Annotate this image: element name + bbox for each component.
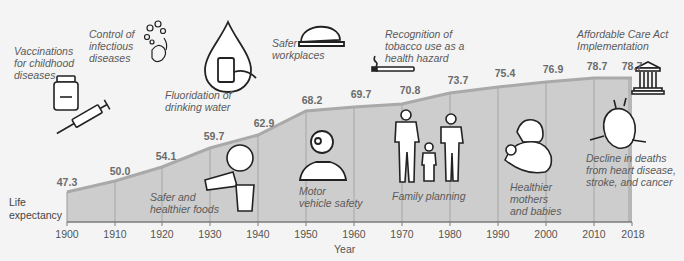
tick-label-2018: 2018 xyxy=(621,228,644,240)
value-label-1910: 50.0 xyxy=(110,165,130,177)
value-label-1960: 69.7 xyxy=(351,88,371,100)
value-label-1920: 54.1 xyxy=(156,150,176,162)
tick-label-1920: 1920 xyxy=(150,228,173,240)
tick-label-1940: 1940 xyxy=(246,228,269,240)
tick-label-1900: 1900 xyxy=(55,228,78,240)
annotation-family-planning: Family planning xyxy=(392,190,466,202)
tick-label-2000: 2000 xyxy=(534,228,557,240)
annotation-motor-vehicle-safety: Motor vehicle safety xyxy=(299,185,363,209)
y-axis-label: Life expectancy xyxy=(9,196,62,222)
annotation-fluoridation: Fluoridation of drinking water xyxy=(165,89,232,113)
tick-label-1960: 1960 xyxy=(342,228,365,240)
annotation-safer-workplaces: Safer workplaces xyxy=(272,37,325,61)
value-label-1900: 47.3 xyxy=(57,176,77,188)
value-label-1970: 70.8 xyxy=(400,84,420,96)
value-label-2010: 78.7 xyxy=(587,60,607,72)
tick-label-2010: 2010 xyxy=(582,228,605,240)
value-label-1980: 73.7 xyxy=(448,74,468,86)
annotation-mothers-babies: Healthier mothers and babies xyxy=(510,181,561,217)
tick-label-1970: 1970 xyxy=(390,228,413,240)
water-drop-icon xyxy=(205,22,256,92)
annotation-tobacco: Recognition of tobacco use as a health h… xyxy=(385,28,464,64)
value-label-2000: 76.9 xyxy=(543,63,563,75)
annotation-infectious-diseases: Control of infectious diseases xyxy=(89,28,135,64)
tick-label-1950: 1950 xyxy=(294,228,317,240)
tick-label-1930: 1930 xyxy=(198,228,221,240)
value-label-2018: 78.7 xyxy=(622,60,642,72)
annotation-vaccinations: Vaccinations for childhood diseases xyxy=(14,45,74,81)
annotation-heart-disease-decline: Decline in deaths from heart disease, st… xyxy=(586,152,676,188)
value-label-1940: 62.9 xyxy=(254,117,274,129)
right-edge xyxy=(628,78,632,222)
tick-label-1980: 1980 xyxy=(438,228,461,240)
vaccine-syringe-icon xyxy=(54,76,110,138)
value-label-1950: 68.2 xyxy=(302,94,322,106)
annotation-safer-foods: Safer and healthier foods xyxy=(150,191,219,215)
value-label-1990: 75.4 xyxy=(495,67,515,79)
tick-label-1910: 1910 xyxy=(103,228,126,240)
germs-icon xyxy=(145,21,167,62)
x-axis-label: Year xyxy=(334,243,355,255)
value-label-1930: 59.7 xyxy=(204,130,224,142)
annotation-affordable-care-act: Affordable Care Act Implementation xyxy=(577,28,668,52)
tick-label-1990: 1990 xyxy=(486,228,509,240)
